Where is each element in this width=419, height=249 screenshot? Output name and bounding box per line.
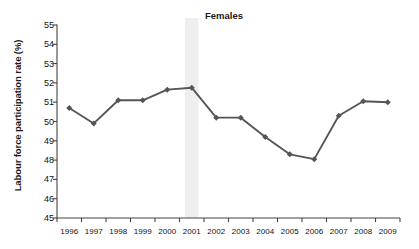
data-point-marker (140, 97, 146, 103)
plot-area (0, 0, 419, 249)
highlight-band-2001 (185, 18, 198, 218)
chart-container: Labour force participation rate (%) Fema… (0, 0, 419, 249)
series-line-females (69, 88, 388, 159)
data-point-marker (164, 87, 170, 93)
data-point-marker (385, 99, 391, 105)
